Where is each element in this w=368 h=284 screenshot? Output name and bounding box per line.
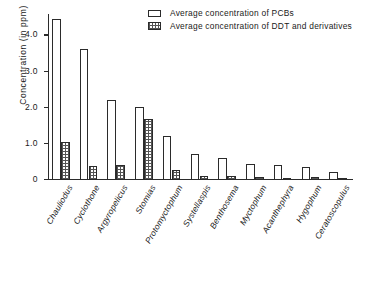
bar-pcb	[302, 167, 311, 180]
legend-item-pcb: Average concentration of PCBs	[148, 8, 352, 19]
bar-pcb	[135, 107, 144, 180]
bar-pcb	[218, 158, 227, 180]
x-axis-label: Hygophum	[294, 183, 324, 224]
bar-pcb	[274, 165, 283, 180]
chart-legend: Average concentration of PCBs Average co…	[148, 8, 352, 33]
bar-group	[329, 172, 347, 180]
bar-group	[52, 19, 70, 180]
bar-pcb	[246, 164, 255, 180]
y-tick-label: 3.0	[25, 66, 38, 76]
bar-chart: Concentration (in ppm) 01.02.03.04.0 Cha…	[0, 0, 368, 284]
bar-ddt	[255, 177, 264, 180]
bar-group	[274, 165, 292, 180]
x-axis-label: Chauliodus	[44, 183, 75, 226]
bar-pcb	[107, 100, 116, 180]
bar-pcb	[191, 154, 200, 180]
x-axis-label: Cyclothone	[71, 183, 102, 226]
y-tick-label: 1.0	[25, 138, 38, 148]
bar-group	[302, 167, 320, 180]
y-tick: 3.0	[44, 71, 49, 72]
bar-ddt	[311, 177, 320, 180]
bar-pcb	[329, 172, 338, 180]
legend-label-pcb: Average concentration of PCBs	[170, 8, 294, 19]
x-axis-label: Systellaspis	[181, 183, 213, 228]
bar-ddt	[61, 142, 70, 180]
bar-group	[191, 154, 209, 180]
bar-pcb	[163, 136, 172, 180]
bar-ddt	[227, 176, 236, 180]
legend-label-ddt: Average concentration of DDT and derivat…	[170, 21, 352, 32]
y-tick-label: 0	[33, 174, 38, 184]
x-axis-category-labels: ChauliodusCyclothoneArgyropelicusStomias…	[48, 183, 353, 283]
x-axis-label: Myctophum	[237, 183, 268, 227]
bar-pcb	[52, 19, 61, 180]
y-tick: 2.0	[44, 107, 49, 108]
y-tick-label: 4.0	[25, 29, 38, 39]
bar-ddt	[200, 176, 209, 180]
plot-area: 01.02.03.04.0	[48, 14, 353, 180]
open-rect-swatch-icon	[148, 10, 161, 18]
hatched-rect-swatch-icon	[148, 22, 161, 30]
bar-ddt	[172, 170, 181, 180]
bar-ddt	[283, 178, 292, 180]
bar-ddt	[116, 165, 125, 180]
bar-pcb	[80, 49, 89, 180]
bar-ddt	[144, 119, 153, 180]
bar-group	[107, 100, 125, 180]
y-tick: 4.0	[44, 34, 49, 35]
bar-ddt	[89, 166, 98, 180]
bar-ddt	[338, 178, 347, 180]
x-axis-label: Benthosema	[207, 183, 240, 230]
bar-group	[163, 136, 181, 180]
y-tick: 0	[44, 179, 49, 180]
x-axis-label: Stomias	[133, 183, 157, 215]
legend-item-ddt: Average concentration of DDT and derivat…	[148, 21, 352, 32]
y-tick: 1.0	[44, 143, 49, 144]
bar-group	[135, 107, 153, 180]
bar-group	[218, 158, 236, 180]
bar-group	[246, 164, 264, 180]
bar-group	[80, 49, 98, 180]
y-axis-line	[48, 14, 49, 180]
y-tick-label: 2.0	[25, 102, 38, 112]
